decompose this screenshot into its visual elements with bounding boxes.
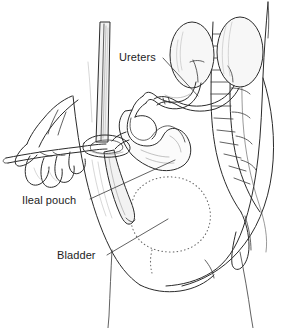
hand-dorsum-contour xyxy=(27,96,72,144)
anatomy-illustration-canvas: Ureters Ileal pouch Bladder xyxy=(0,0,292,328)
kidneys-group xyxy=(170,17,263,88)
kidney-right xyxy=(217,17,263,87)
ureter-junction-lower xyxy=(135,103,146,117)
thigh-line-back xyxy=(240,252,253,328)
middle-finger-outline xyxy=(41,158,62,187)
tube-end-cap xyxy=(3,158,8,163)
catheter-intra-abdominal xyxy=(104,150,135,224)
thigh-line-front xyxy=(108,250,112,328)
hand-tendon-line-1 xyxy=(48,110,58,134)
vertebra-division-8 xyxy=(214,118,233,119)
vertebra-division-12 xyxy=(229,166,246,171)
ureter-tubes-group xyxy=(132,82,239,117)
ileal-pouch-group xyxy=(112,110,191,171)
label-ileal-pouch: Ileal pouch xyxy=(22,194,76,206)
hand-wrist-upper xyxy=(39,100,78,147)
gripped-tube-upper xyxy=(6,144,106,158)
leader-ileal-pouch xyxy=(90,160,175,199)
ureter-right-posterior-wall xyxy=(157,88,239,111)
vertebra-division-10 xyxy=(220,142,238,145)
index-finger-outline xyxy=(25,156,49,185)
bladder-outline xyxy=(130,177,210,252)
label-ureters: Ureters xyxy=(119,51,156,63)
bladder-neck-outline xyxy=(151,250,153,273)
ureter-junction-upper xyxy=(132,96,143,110)
vertebra-division-13 xyxy=(234,178,250,184)
flank-upper-contour xyxy=(268,2,269,38)
spinous-process-5 xyxy=(236,136,252,144)
spinous-process-4 xyxy=(232,112,250,118)
label-bladder: Bladder xyxy=(57,249,96,261)
buttock-contour xyxy=(182,78,274,286)
pouch-afferent-loop xyxy=(135,116,156,139)
ring-finger-outline xyxy=(55,156,74,182)
bladder-group xyxy=(130,177,210,273)
spinous-process-3 xyxy=(231,88,250,94)
illustration-figure: Ureters Ileal pouch Bladder xyxy=(0,0,292,328)
vertebra-division-11 xyxy=(224,154,241,158)
leader-bladder xyxy=(107,219,168,255)
abdomen-shading-3 xyxy=(88,62,92,122)
hand-tendon-line-2 xyxy=(58,112,66,135)
